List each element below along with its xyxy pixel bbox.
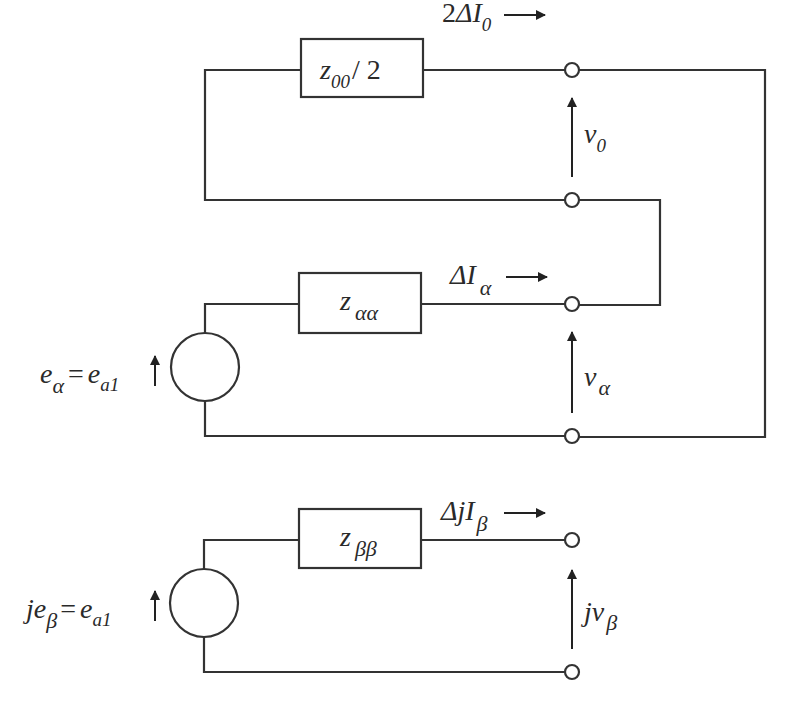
voltage-source-beta [170, 569, 238, 637]
label-voltage-v0: v0 [584, 118, 606, 156]
alpha-circuit [155, 273, 579, 443]
label-voltage-jv-beta: jvβ [581, 596, 617, 635]
terminal [565, 665, 579, 679]
voltage-source-alpha [171, 333, 239, 401]
label-source-alpha: eα=ea1 [40, 358, 119, 398]
label-source-beta: jeβ=ea1 [23, 593, 111, 633]
wire [205, 304, 299, 333]
label-current-djI-beta: ΔjIβ [440, 495, 488, 536]
wire-link [578, 200, 660, 305]
wire [205, 401, 566, 436]
wire [204, 637, 566, 672]
terminal [565, 193, 579, 207]
terminal [565, 533, 579, 547]
label-current-2dI0: 2ΔI0 [442, 0, 492, 35]
zero-sequence-loop [205, 39, 765, 437]
label-voltage-v-alpha: vα [584, 361, 610, 400]
wire [204, 540, 299, 569]
beta-circuit [155, 509, 579, 679]
circuit-diagram: z00/ 2 2ΔI0 v0 zαα ΔIα vα eα=ea1 zββ ΔjI… [0, 0, 801, 720]
terminal [565, 63, 579, 77]
label-current-dI-alpha: ΔIα [449, 259, 492, 300]
terminal [565, 297, 579, 311]
terminal [565, 429, 579, 443]
